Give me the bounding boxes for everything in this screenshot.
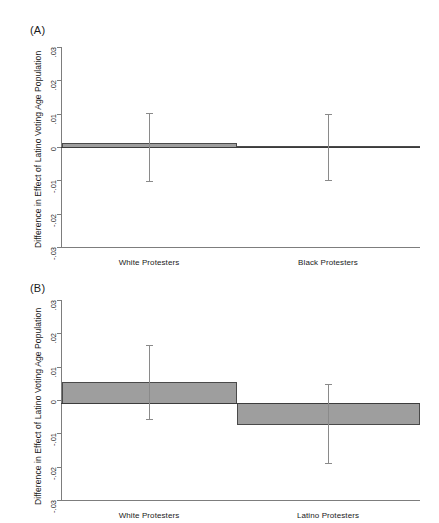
panel-b-zero-line [61,403,420,404]
panel-b-xlabel-latino-protesters: Latino Protesters [278,511,378,520]
panel-b-ticklabel-4: -.01 [49,433,59,446]
panel-a-ticklabel-5: -.02 [49,214,59,227]
panel-a-zero-line [61,147,420,148]
panel-b-errorbar-white-protesters [149,345,150,419]
panel-a-errorcap-bottom-white-protesters [146,181,153,182]
panel-b-xlabel-white-protesters: White Protesters [99,511,199,520]
panel-b-errorcap-bottom-latino-protesters [325,463,332,464]
panel-a-xlabel-white-protesters: White Protesters [99,258,199,267]
panel-b-errorcap-top-white-protesters [146,345,153,346]
panel-a-ticklabel-wrap-6: -.03 [28,242,54,252]
panel-a-plot-area: .03 .02 .01 0 -.01 -.02 -.03 [0,0,439,270]
panel-b-ticklabel-0: .03 [49,300,59,310]
panel-a-ticklabel-3: 0 [49,147,59,151]
panel-b-ticklabel-wrap-0: .03 [28,295,54,305]
panel-a-ticklabel-0: .03 [49,47,59,57]
panel-a-ticklabel-wrap-0: .03 [28,42,54,52]
panel-b-ticklabel-2: .01 [49,367,59,377]
panel-a-ticklabel-4: -.01 [49,180,59,193]
panel-b-ticklabel-3: 0 [49,400,59,404]
panel-a-ticklabel-wrap-5: -.02 [28,209,54,219]
panel-b-ticklabel-1: .02 [49,333,59,343]
panel-a-ticklabel-wrap-4: -.01 [28,175,54,185]
panel-a-xlabel-black-protesters: Black Protesters [278,258,378,267]
panel-b-errorcap-top-latino-protesters [325,384,332,385]
panel-a-errorbar-black-protesters [328,114,329,180]
panel-b-plot-area: .03 .02 .01 0 -.01 -.02 -.03 [0,270,439,523]
panel-a-errorcap-top-white-protesters [146,113,153,114]
panel-b-x-axis-line [61,500,420,501]
panel-b-ticklabel-wrap-3: 0 [28,395,54,405]
panel-a-errorcap-bottom-black-protesters [325,180,332,181]
panel-b-ticklabel-wrap-5: -.02 [28,462,54,472]
panel-b-ticklabel-wrap-4: -.01 [28,428,54,438]
panel-b-ticklabel-wrap-2: .01 [28,362,54,372]
panel-a-ticklabel-wrap-1: .02 [28,75,54,85]
panel-a-x-axis-line [61,247,420,248]
figure-container: (A) Difference in Effect of Latino Votin… [0,0,439,523]
panel-b: (B) Difference in Effect of Latino Votin… [0,270,439,523]
panel-b-errorcap-bottom-white-protesters [146,419,153,420]
panel-b-ticklabel-wrap-6: -.03 [28,495,54,505]
panel-b-errorbar-latino-protesters [328,384,329,463]
panel-a: (A) Difference in Effect of Latino Votin… [0,0,439,270]
panel-b-ticklabel-5: -.02 [49,467,59,480]
panel-b-ticklabel-6: -.03 [49,500,59,513]
panel-a-errorcap-top-black-protesters [325,114,332,115]
panel-a-ticklabel-6: -.03 [49,247,59,260]
panel-a-ticklabel-wrap-2: .01 [28,109,54,119]
panel-a-ticklabel-1: .02 [49,80,59,90]
panel-a-ticklabel-2: .01 [49,114,59,124]
panel-b-ticklabel-wrap-1: .02 [28,328,54,338]
panel-a-errorbar-white-protesters [149,113,150,181]
panel-a-ticklabel-wrap-3: 0 [28,142,54,152]
